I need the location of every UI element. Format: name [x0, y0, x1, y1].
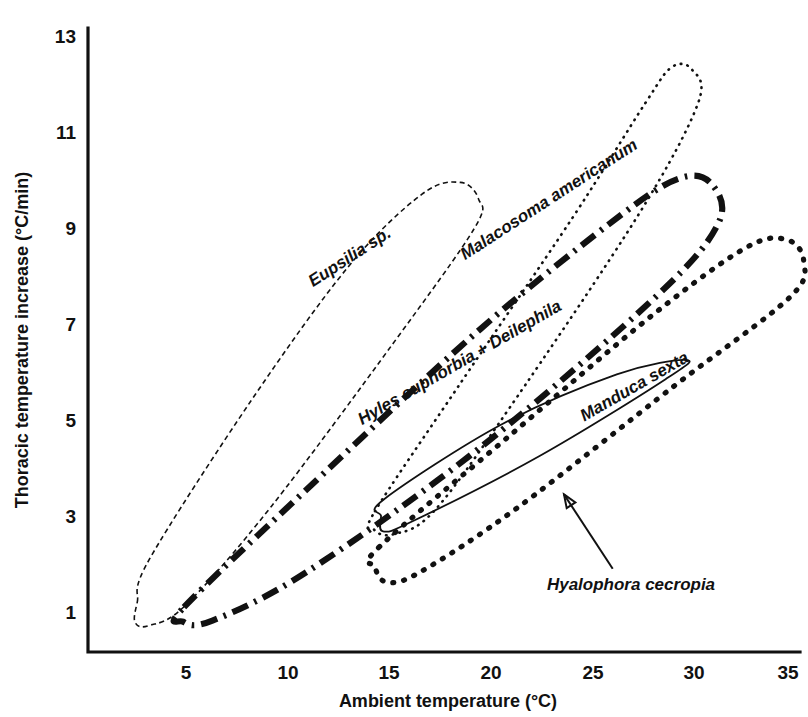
y-axis-title: Thoracic temperature increase (°C/min) — [12, 172, 32, 508]
series-label-hyalophora-cecropia: Hyalophora cecropia — [547, 575, 715, 594]
series-label-malacosoma-americanum: Malacosoma americanum — [457, 135, 641, 264]
envelope-hyles-euphorbia-deilephila[interactable] — [174, 176, 723, 626]
x-tick-labels: 5 10 15 20 25 30 35 — [181, 662, 799, 683]
x-tick-20: 20 — [480, 662, 501, 683]
hyalophora-leader-arrow — [564, 494, 613, 568]
series-label-eupsilia-sp: Eupsilia sp. — [305, 223, 395, 290]
envelope-eupsilia-sp[interactable] — [134, 182, 483, 627]
y-tick-7: 7 — [65, 314, 76, 335]
series-labels: Eupsilia sp. Malacosoma americanum Hyles… — [305, 135, 715, 594]
y-tick-13: 13 — [55, 26, 76, 47]
y-tick-1: 1 — [65, 602, 76, 623]
chart-figure: 13 11 9 7 5 3 1 5 10 15 20 25 30 35 Ambi… — [0, 0, 808, 717]
x-tick-25: 25 — [582, 662, 604, 683]
y-tick-labels: 13 11 9 7 5 3 1 — [55, 26, 77, 623]
x-tick-10: 10 — [277, 662, 298, 683]
x-tick-30: 30 — [683, 662, 704, 683]
x-tick-5: 5 — [181, 662, 192, 683]
x-tick-15: 15 — [378, 662, 400, 683]
y-tick-9: 9 — [65, 218, 76, 239]
x-axis-title: Ambient temperature (°C) — [339, 691, 557, 711]
x-tick-35: 35 — [777, 662, 799, 683]
y-tick-5: 5 — [65, 410, 76, 431]
chart-svg: 13 11 9 7 5 3 1 5 10 15 20 25 30 35 Ambi… — [0, 0, 808, 717]
envelope-malacosoma-americanum[interactable] — [368, 64, 702, 535]
y-tick-11: 11 — [56, 122, 77, 143]
y-tick-3: 3 — [65, 506, 76, 527]
